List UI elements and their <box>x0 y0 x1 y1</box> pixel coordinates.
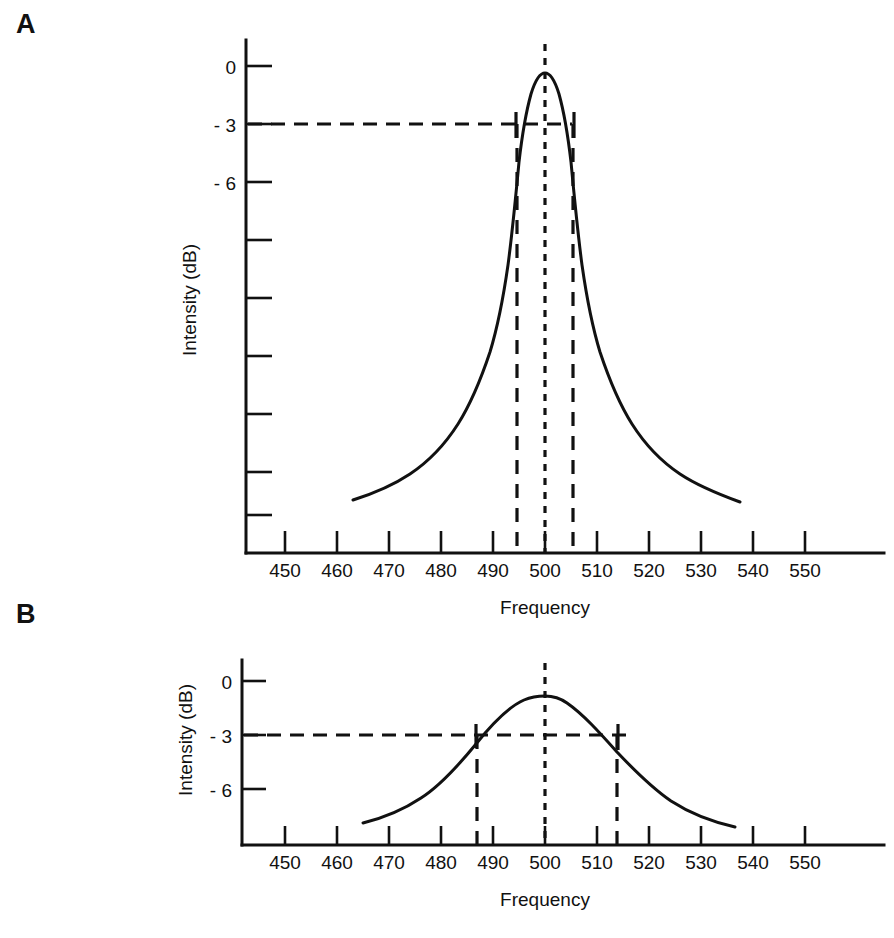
panel-b-x-tick-510: 510 <box>581 852 613 873</box>
figure-container: A 0 - 3 - 6 Intensity (dB) <box>0 0 894 938</box>
panel-b-y-tick-0: 0 <box>221 672 232 693</box>
panel-b-x-tick-480: 480 <box>425 852 457 873</box>
panel-a-x-tick-520: 520 <box>633 560 665 581</box>
panel-a-x-tick-530: 530 <box>685 560 717 581</box>
panel-a-x-tick-510: 510 <box>581 560 613 581</box>
panel-a-y-axis-title: Intensity (dB) <box>179 244 200 356</box>
panel-a-y-tick-0: 0 <box>225 57 236 78</box>
panel-b: B 0 - 3 - 6 Intensity (dB) <box>16 599 884 910</box>
panel-a-x-axis-title: Frequency <box>500 597 590 618</box>
panel-b-x-tick-500: 500 <box>529 852 561 873</box>
panel-b-x-tick-460: 460 <box>321 852 353 873</box>
panel-a-x-tick-470: 470 <box>373 560 405 581</box>
panel-b-x-tick-470: 470 <box>373 852 405 873</box>
panel-a-x-tick-450: 450 <box>269 560 301 581</box>
panel-b-response-curve <box>363 696 735 827</box>
panel-a-x-tick-490: 490 <box>477 560 509 581</box>
panel-a-label: A <box>16 9 36 39</box>
panel-b-y-tick-minus6: - 6 <box>210 780 232 801</box>
panel-b-y-tick-minus3: - 3 <box>210 726 232 747</box>
panel-a-y-tick-minus3: - 3 <box>214 115 236 136</box>
panel-b-x-tick-450: 450 <box>269 852 301 873</box>
figure-svg: A 0 - 3 - 6 Intensity (dB) <box>0 0 894 938</box>
panel-a-y-tick-minus6: - 6 <box>214 173 236 194</box>
panel-a-x-tick-480: 480 <box>425 560 457 581</box>
panel-b-label: B <box>16 599 36 629</box>
panel-b-x-tick-520: 520 <box>633 852 665 873</box>
panel-a-x-tick-550: 550 <box>789 560 821 581</box>
panel-b-y-axis-title: Intensity (dB) <box>175 684 196 796</box>
panel-a-x-tick-540: 540 <box>737 560 769 581</box>
panel-a-y-ticks <box>246 66 272 515</box>
panel-a-x-tick-460: 460 <box>321 560 353 581</box>
panel-a-x-tick-500: 500 <box>529 560 561 581</box>
panel-b-x-tick-530: 530 <box>685 852 717 873</box>
panel-b-x-tick-540: 540 <box>737 852 769 873</box>
panel-b-x-axis-title: Frequency <box>500 889 590 910</box>
panel-b-x-tick-550: 550 <box>789 852 821 873</box>
panel-a: A 0 - 3 - 6 Intensity (dB) <box>16 9 884 618</box>
panel-b-x-tick-490: 490 <box>477 852 509 873</box>
